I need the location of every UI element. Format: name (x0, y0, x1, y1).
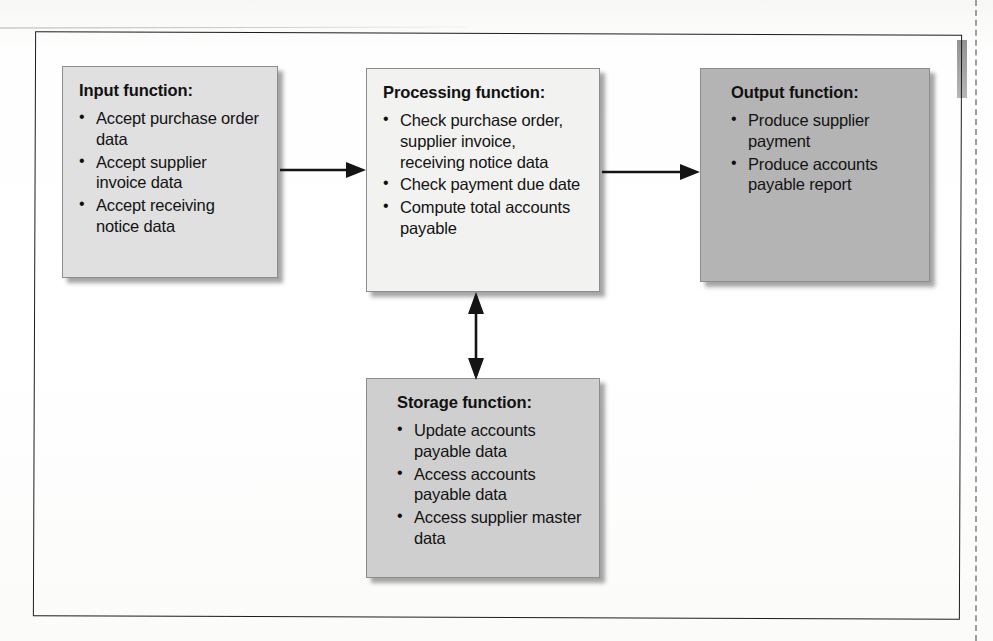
processing-function-list: Check purchase order, supplier invoice, … (383, 110, 583, 239)
list-item: Check purchase order, supplier invoice, … (383, 110, 583, 172)
list-item: Accept supplier invoice data (79, 152, 261, 194)
storage-function-box: Storage function: Update accounts payabl… (366, 378, 600, 578)
list-item: Compute total accounts payable (383, 197, 583, 239)
list-item: Accept purchase order data (79, 108, 261, 150)
arrow-input-to-processing-icon (278, 160, 368, 180)
output-function-box: Output function: Produce supplier paymen… (700, 68, 930, 282)
storage-function-list: Update accounts payable data Access acco… (383, 420, 583, 549)
list-item: Check payment due date (383, 174, 583, 195)
list-item: Accept receiving notice data (79, 195, 261, 237)
input-function-box: Input function: Accept purchase order da… (62, 66, 278, 278)
list-item: Access supplier master data (397, 507, 583, 549)
list-item: Produce supplier payment (731, 110, 913, 152)
double-arrow-processing-storage-icon (466, 292, 486, 380)
figure-canvas: ·· ·· · Input function: Accept purchase … (0, 0, 993, 641)
processing-function-box: Processing function: Check purchase orde… (366, 68, 600, 292)
cropped-caption-sliver: ·· ·· · (0, 0, 993, 16)
processing-function-title: Processing function: (383, 83, 583, 102)
list-item: Update accounts payable data (397, 420, 583, 462)
arrow-processing-to-output-icon (600, 162, 702, 182)
output-function-list: Produce supplier payment Produce account… (717, 110, 913, 195)
list-item: Produce accounts payable report (731, 154, 913, 196)
page-edge-dashed-line (975, 0, 977, 641)
cropped-caption-text: ·· ·· · (300, 0, 335, 4)
input-function-list: Accept purchase order data Accept suppli… (79, 108, 261, 237)
output-function-title: Output function: (717, 83, 913, 102)
list-item: Access accounts payable data (397, 464, 583, 506)
input-function-title: Input function: (79, 81, 261, 100)
storage-function-title: Storage function: (383, 393, 583, 412)
